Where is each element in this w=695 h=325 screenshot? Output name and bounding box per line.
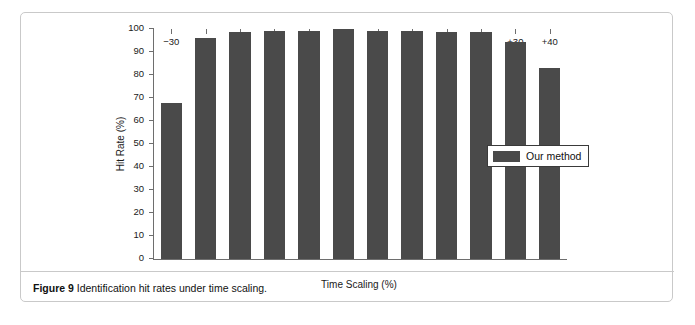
y-tick: 80 (149, 74, 154, 75)
figure-card: Hit Rate (%) Time Scaling (%) 0102030405… (20, 12, 673, 302)
bar (264, 31, 285, 259)
legend-label-our-method: Our method (526, 150, 581, 162)
y-axis-label: Hit Rate (%) (115, 117, 126, 171)
y-tick: 90 (149, 51, 154, 52)
y-tick: 20 (149, 212, 154, 213)
y-tick-label: 10 (133, 229, 144, 240)
x-tick-label: +40 (542, 36, 558, 47)
x-tick-label: −30 (163, 36, 179, 47)
figure-caption: Figure 9 Identification hit rates under … (33, 281, 663, 295)
bar (195, 38, 216, 259)
bar (161, 103, 182, 259)
bar (401, 31, 422, 259)
y-tick: 70 (149, 97, 154, 98)
bar (436, 32, 457, 259)
x-tick (550, 29, 551, 34)
chart-plot-area: Hit Rate (%) Time Scaling (%) 0102030405… (21, 13, 674, 271)
y-tick: 40 (149, 166, 154, 167)
bar (229, 32, 250, 259)
caption-figure-number: Figure 9 (33, 282, 74, 294)
y-tick: 100 (149, 28, 154, 29)
y-tick: 60 (149, 120, 154, 121)
x-tick (171, 29, 172, 34)
y-tick: 10 (149, 235, 154, 236)
y-tick-label: 50 (133, 137, 144, 148)
y-tick-label: 80 (133, 68, 144, 79)
bar (333, 29, 354, 259)
y-tick-label: 60 (133, 114, 144, 125)
y-tick-label: 70 (133, 91, 144, 102)
bar (367, 31, 388, 259)
bar (298, 31, 319, 259)
y-tick-label: 40 (133, 160, 144, 171)
y-tick-label: 20 (133, 206, 144, 217)
y-tick: 50 (149, 143, 154, 144)
caption-body: Identification hit rates under time scal… (77, 282, 267, 294)
x-tick (206, 29, 207, 34)
x-tick (515, 29, 516, 34)
y-tick-label: 90 (133, 45, 144, 56)
legend-swatch-our-method (493, 151, 520, 162)
y-tick-label: 100 (128, 22, 144, 33)
y-tick-label: 0 (139, 252, 144, 263)
chart-legend: Our method (487, 145, 589, 167)
y-tick-label: 30 (133, 183, 144, 194)
y-tick: 30 (149, 189, 154, 190)
caption-divider (21, 271, 674, 272)
y-tick: 0 (149, 258, 154, 259)
